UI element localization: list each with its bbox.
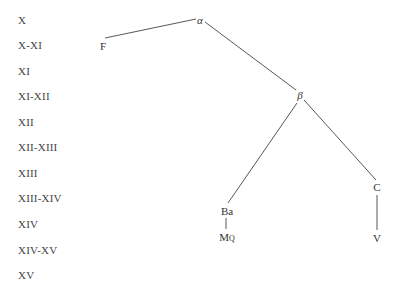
edge-alpha-F <box>105 19 196 38</box>
node-MQ-main: M <box>219 231 229 243</box>
node-alpha: α <box>197 14 203 26</box>
node-MQ: MQ <box>219 231 235 245</box>
stemma-edges <box>0 0 400 295</box>
node-F: F <box>100 40 106 52</box>
node-C: C <box>373 181 380 193</box>
edge-alpha-beta <box>205 22 296 90</box>
edge-beta-Ba <box>228 103 297 203</box>
node-Ba: Ba <box>221 205 233 217</box>
node-beta: β <box>297 89 302 101</box>
node-V: V <box>373 232 381 244</box>
edge-beta-C <box>304 100 376 180</box>
node-MQ-sub: Q <box>229 234 235 243</box>
